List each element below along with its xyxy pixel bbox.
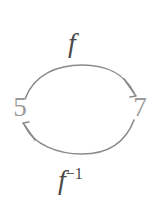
node-label-domain: 5 — [6, 94, 34, 121]
diagram-canvas: 5 7 f f−1 — [0, 0, 161, 216]
forward-arrow-arc — [25, 65, 134, 99]
edge-label-inverse-base: f — [58, 164, 66, 195]
edge-label-inverse-exponent: −1 — [66, 165, 83, 182]
edge-label-forward: f — [68, 29, 76, 57]
inverse-arrow-arc — [25, 120, 134, 154]
edge-label-inverse: f−1 — [58, 166, 83, 194]
inverse-arrowhead-icon — [23, 122, 35, 140]
node-label-codomain: 7 — [126, 94, 154, 121]
